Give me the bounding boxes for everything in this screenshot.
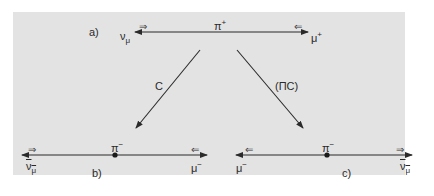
spin-arrow-right-icon: ⇒ [28,145,36,155]
neutrino-a: νμ [120,31,130,42]
spin-arrow-left-icon: ⇐ [191,145,199,155]
label-a: a) [89,27,99,38]
muon-plus: μ+ [311,33,322,44]
muon-minus-c: μ− [236,163,247,174]
pion-minus-b: π− [111,143,123,154]
spin-arrow-right-icon: ⇒ [396,145,404,155]
spin-arrow-left-icon: ⇐ [245,145,253,155]
antineutrino-c: νμ [400,161,410,172]
spin-arrow-left-icon: ⇐ [294,22,302,32]
pion-minus-c: π− [322,143,334,154]
spin-arrow-right-icon: ⇒ [139,22,147,32]
muon-minus-b: μ− [191,163,202,174]
label-b: b) [92,168,102,179]
c-transform-label: C [155,81,163,92]
label-c: c) [342,168,351,179]
pc-transform-label: (ПС) [275,81,298,92]
antineutrino-b: νμ [26,161,36,172]
c-transform-arrow [136,50,200,128]
pion-plus: π+ [214,21,226,32]
